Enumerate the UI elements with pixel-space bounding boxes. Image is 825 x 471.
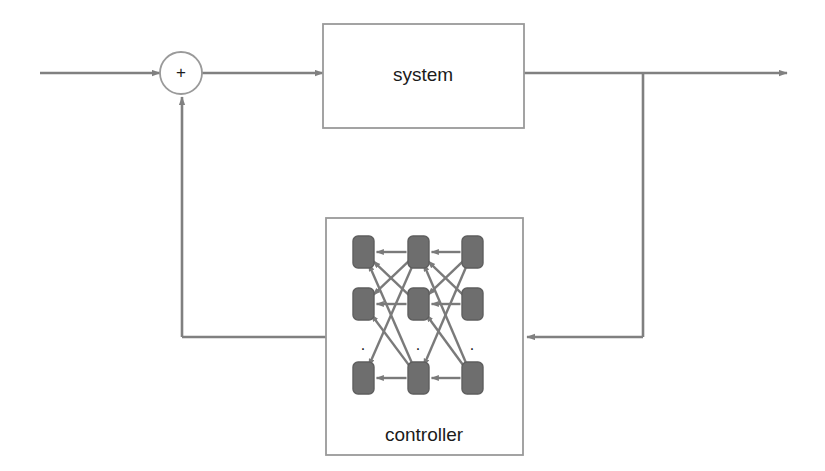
- network-node: [353, 362, 374, 394]
- network-ellipsis-dot: .: [416, 336, 420, 353]
- network-node: [408, 288, 429, 320]
- neural-network-group: ...: [353, 236, 483, 394]
- network-node: [408, 236, 429, 268]
- network-node: [408, 362, 429, 394]
- network-node: [462, 288, 483, 320]
- network-node: [353, 288, 374, 320]
- network-node: [462, 236, 483, 268]
- summing-junction-plus-label: +: [176, 63, 186, 82]
- network-node: [353, 236, 374, 268]
- block-diagram-canvas: ... + systemcontroller: [0, 0, 825, 471]
- network-ellipsis-dot: .: [470, 336, 474, 353]
- network-ellipsis-dot: .: [361, 336, 365, 353]
- network-node: [462, 362, 483, 394]
- summing-junction-group: +: [160, 52, 202, 94]
- system-label: system: [393, 64, 453, 85]
- diagram-svg: ... + systemcontroller: [0, 0, 825, 471]
- controller-label: controller: [385, 424, 464, 445]
